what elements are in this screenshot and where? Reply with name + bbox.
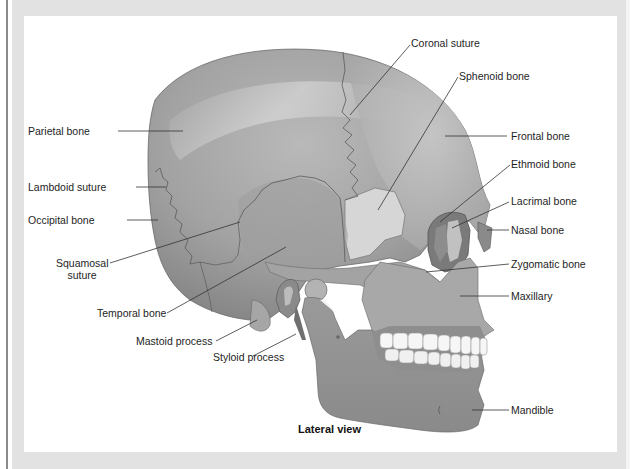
label-maxillary: Maxillary	[511, 290, 552, 302]
nasal-bone	[478, 222, 492, 252]
label-frontal-bone: Frontal bone	[511, 130, 570, 142]
temporal-region	[238, 178, 348, 275]
label-coronal-suture: Coronal suture	[411, 37, 480, 49]
label-squamosal-suture-line1: Squamosal	[56, 257, 108, 269]
label-temporal-bone: Temporal bone	[97, 307, 166, 319]
figure-caption: Lateral view	[298, 423, 361, 435]
label-lambdoid-suture: Lambdoid suture	[28, 181, 106, 193]
label-mandible: Mandible	[511, 404, 554, 416]
label-lacrimal-bone: Lacrimal bone	[511, 195, 577, 207]
label-mastoid-process: Mastoid process	[136, 335, 212, 347]
label-parietal-bone: Parietal bone	[28, 125, 90, 137]
label-occipital-bone: Occipital bone	[28, 214, 95, 226]
label-zygomatic-bone: Zygomatic bone	[511, 258, 586, 270]
label-squamosal-suture-line2: suture	[56, 269, 108, 281]
label-squamosal-suture: Squamosal suture	[56, 257, 108, 281]
label-nasal-bone: Nasal bone	[511, 224, 564, 236]
label-ethmoid-bone: Ethmoid bone	[511, 158, 576, 170]
label-styloid-process: Styloid process	[213, 351, 284, 363]
label-sphenoid-bone: Sphenoid bone	[459, 70, 530, 82]
